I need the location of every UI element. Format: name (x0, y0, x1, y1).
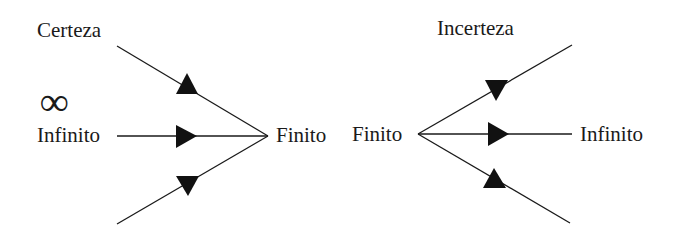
right-bottom-arrowhead-icon (483, 168, 506, 188)
diagram-canvas: Certeza ∞ Infinito Finito Incerteza Fini… (0, 0, 685, 239)
left-middle-arrowhead-icon (176, 125, 197, 148)
right-divergence-arrows (418, 45, 572, 223)
left-infinito-label: Infinito (37, 125, 100, 146)
infinity-symbol-icon: ∞ (40, 82, 69, 122)
right-middle-arrowhead-icon (488, 122, 509, 146)
right-top-arrowhead-icon (485, 80, 508, 101)
left-bottom-arrowhead-icon (176, 176, 199, 196)
left-convergence-arrows (117, 46, 268, 224)
arrow-graphics (0, 0, 685, 239)
right-infinito-label: Infinito (580, 124, 643, 145)
left-finito-label: Finito (276, 125, 326, 146)
incerteza-label: Incerteza (437, 18, 514, 39)
certeza-label: Certeza (37, 20, 101, 41)
right-finito-label: Finito (352, 124, 402, 145)
